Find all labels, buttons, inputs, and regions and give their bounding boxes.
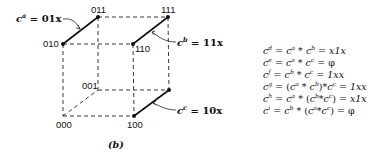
eq-f-eq2: = [313,69,327,80]
eq-d-eq1: = [272,45,286,56]
arrow-cb [152,32,176,42]
equation-list: cd = ca * cb = x1x ce = ca * cc = φ cf =… [263,45,367,117]
vertex-label-010: 010 [43,38,59,49]
vertex-dot-100 [132,114,136,118]
eq-e-eq1: = [272,57,286,68]
cube-label-cc-rhs: = 10x [187,105,223,116]
eq-h-eq2: = [336,93,350,104]
eq-e-star: * [295,57,306,68]
eq-i-eq2: = [334,105,348,116]
cube-label-cc: cc = 10x [177,104,223,116]
eq-d-star: * [295,45,306,56]
edge-cc [134,90,169,116]
cube-label-ca: ca = 01x [16,12,63,24]
edge-cb [133,17,168,44]
edge-000-001 [63,90,98,116]
vertex-label-100: 100 [127,119,143,130]
equation-e: ce = ca * cc = φ [263,57,367,69]
eq-f-eq1: = [271,69,285,80]
cube-label-cb-rhs: = 11x [188,37,224,48]
eq-g-star1: * [299,81,310,92]
eq-e-eq2: = [314,57,328,68]
eq-i-eq1: = [270,105,284,116]
eq-f-result: 1xx [327,69,344,80]
eq-f-star: * [294,69,305,80]
eq-g-eq1: = [272,81,286,92]
vertex-label-001: 001 [82,80,98,91]
vertex-dots [61,15,171,118]
vertex-label-111: 111 [161,4,175,15]
eq-i-star1: * [293,105,304,116]
eq-h-star1: * [295,93,306,104]
vertex-dot-101 [167,88,171,92]
figure-caption: (b) [108,139,124,150]
cube-label-cb: cb = 11x [177,36,224,48]
vertex-dot-011 [96,15,100,19]
eq-h-eq1: = [272,93,286,104]
vertex-dot-111 [166,15,170,19]
equation-i: ci = cb * (ca*cc) = φ [263,105,367,117]
eq-i-result: φ [348,105,355,116]
eq-d-eq2: = [315,45,329,56]
vertex-dot-010 [61,42,65,46]
edge-110-100 [133,44,134,116]
eq-h-result: x1x [350,93,367,104]
eq-g-result: 1xx [350,81,367,92]
vertex-label-011: 011 [91,4,106,15]
arrowhead-ca [76,25,80,29]
equation-d: cd = ca * cb = x1x [263,45,367,57]
eq-g-eq2: = [336,81,350,92]
edge-ca [63,17,98,44]
arrow-cc [153,103,176,110]
eq-d-result: x1x [329,45,346,56]
vertex-label-110: 110 [135,43,150,54]
cube-label-ca-rhs: = 01x [26,13,62,24]
pointer-arrows [63,19,176,110]
vertex-label-000: 000 [56,119,72,130]
edge-111-101 [168,17,169,90]
eq-e-result: φ [328,57,335,68]
arrow-ca [63,19,80,29]
